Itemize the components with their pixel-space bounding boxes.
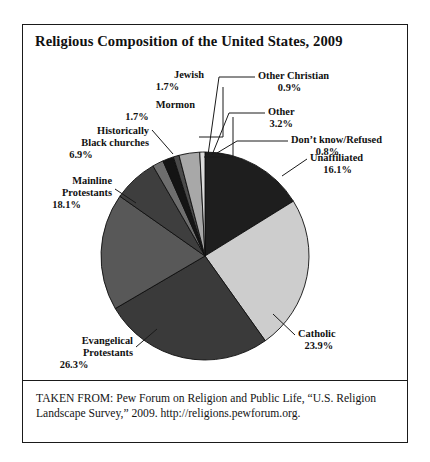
other-christian-pct: 0.9% [258,82,329,94]
mainline-line2: Protestants [29,187,112,199]
pie-chart: Jewish 1.7% Mormon 1.7% Historically Bla… [23,25,409,387]
slice-label-other-christian: Other Christian 0.9% [258,70,329,94]
mainline-line1: Mainline [72,175,112,186]
slice-label-dont-know: Don’t know/Refused 0.8% [291,134,382,158]
dont-know-name: Don’t know/Refused [291,134,382,145]
other-christian-name: Other Christian [258,70,329,81]
dont-know-pct: 0.8% [291,146,382,158]
unaffiliated-pct: 16.1% [310,164,363,176]
pie-slice-group [101,152,309,360]
jewish-name: Jewish [174,69,204,80]
source-note: TAKEN FROM: Pew Forum on Religion and Pu… [36,391,394,422]
slice-label-mainline: Mainline Protestants 18.1% [29,175,112,210]
mormon-pct: 1.7% [85,111,195,123]
black-churches-line2: Black churches [29,137,149,149]
figure-frame: Religious Composition of the United Stat… [22,24,408,443]
caption-divider [23,380,407,381]
mormon-name: Mormon [156,99,195,110]
leader-line-black-churches [152,130,173,154]
slice-label-other: Other 3.2% [268,106,295,130]
leader-line-mormon [199,87,223,137]
evangelical-line1: Evangelical [82,335,133,346]
jewish-pct: 1.7% [131,81,204,93]
evangelical-pct: 26.3% [29,359,133,371]
catholic-name: Catholic [298,328,336,339]
evangelical-line2: Protestants [29,347,133,359]
black-churches-line1: Historically [97,125,149,136]
leader-line-dont-know [217,141,288,153]
leader-line-other [212,113,265,155]
leader-line-unaffiliated [282,159,307,176]
mainline-pct: 18.1% [29,199,112,211]
slice-label-jewish-text: Jewish 1.7% [131,69,204,93]
slice-label-mormon: Mormon 1.7% [85,99,195,123]
slice-label-black-churches: Historically Black churches 6.9% [29,125,149,160]
black-churches-pct: 6.9% [29,149,149,161]
other-pct: 3.2% [268,118,295,130]
catholic-pct: 23.9% [298,340,336,352]
slice-label-catholic: Catholic 23.9% [298,328,336,352]
leader-line-other-christian [208,77,255,155]
slice-label-evangelical: Evangelical Protestants 26.3% [29,335,133,370]
other-name: Other [268,106,295,117]
